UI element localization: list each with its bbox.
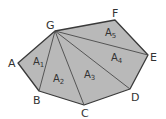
triangulated-polygon-diagram: ABCDEFG A1A2A3A4A5 (0, 0, 166, 119)
vertex-label-c: C (81, 107, 89, 119)
vertex-label-d: D (131, 91, 139, 104)
vertex-label-e: E (150, 51, 157, 64)
vertex-label-a: A (8, 57, 16, 70)
vertex-label-g: G (46, 19, 55, 32)
vertex-label-f: F (112, 7, 118, 20)
vertex-label-b: B (33, 94, 41, 107)
